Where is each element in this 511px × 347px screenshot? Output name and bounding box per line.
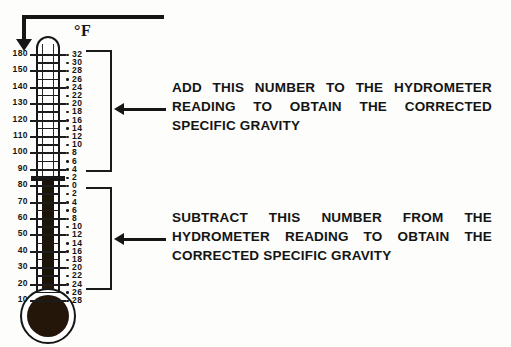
- scale-tick-dot: [66, 177, 69, 180]
- scale-tick: [36, 95, 60, 96]
- thermometer-correction-diagram: °F 1801501401301201101009080706050403020…: [0, 0, 511, 347]
- pointer-line-horizontal: [22, 15, 164, 19]
- scale-tick-dot: [66, 209, 69, 212]
- scale-tick-dot: [66, 152, 69, 155]
- scale-tick: [36, 128, 60, 129]
- scale-tick: [36, 62, 60, 63]
- temperature-value-label: 150: [13, 65, 28, 74]
- scale-tick-dot: [66, 54, 69, 57]
- scale-tick: [36, 177, 60, 178]
- scale-tick-dot: [66, 119, 69, 122]
- scale-tick-dot: [66, 86, 69, 89]
- temperature-value-label: 120: [13, 115, 28, 124]
- scale-tick-dot: [66, 103, 69, 106]
- scale-tick: [30, 87, 66, 89]
- arrow-head-add-icon: [114, 103, 124, 115]
- annotation-subtract-line-3: CORRECTED SPECIFIC GRAVITY: [172, 246, 492, 265]
- scale-tick-dot: [66, 291, 69, 294]
- scale-tick: [30, 103, 66, 105]
- scale-tick-dot: [66, 283, 69, 286]
- temperature-value-label: 100: [13, 147, 28, 156]
- temperature-value-label: 10: [18, 295, 28, 304]
- temperature-value-label: 140: [13, 82, 28, 91]
- temperature-value-label: 30: [18, 262, 28, 271]
- arrow-line-subtract: [124, 238, 166, 241]
- scale-tick: [36, 161, 60, 162]
- scale-tick: [36, 259, 60, 260]
- temperature-value-label: 110: [13, 131, 28, 140]
- scale-tick-dot: [66, 218, 69, 221]
- degree-fahrenheit-label: °F: [74, 22, 91, 40]
- scale-tick: [30, 185, 66, 187]
- scale-tick-dot: [66, 185, 69, 188]
- scale-tick-dot: [66, 201, 69, 204]
- scale-tick: [36, 275, 60, 276]
- annotation-add-line-1: ADD THIS NUMBER TO THE HYDROMETER: [172, 78, 492, 97]
- arrow-line-add: [124, 108, 166, 111]
- temperature-value-label: 60: [18, 213, 28, 222]
- scale-tick-dot: [66, 136, 69, 139]
- temperature-value-label: 50: [18, 229, 28, 238]
- scale-tick-dot: [66, 300, 69, 303]
- scale-tick: [30, 70, 66, 72]
- scale-tick: [36, 193, 60, 194]
- scale-tick-dot: [66, 111, 69, 114]
- scale-tick: [36, 79, 60, 80]
- scale-tick: [30, 152, 66, 154]
- temperature-value-label: 70: [18, 197, 28, 206]
- scale-tick: [36, 144, 60, 145]
- scale-tick-dot: [66, 275, 69, 278]
- temperature-value-label: 130: [13, 98, 28, 107]
- scale-tick-dot: [66, 160, 69, 163]
- scale-tick-dot: [66, 267, 69, 270]
- scale-tick-dot: [66, 95, 69, 98]
- temperature-value-label: 90: [18, 164, 28, 173]
- scale-tick-dot: [66, 242, 69, 245]
- annotation-subtract-line-2: HYDROMETER READING TO OBTAIN THE: [172, 227, 492, 246]
- scale-tick: [30, 136, 66, 138]
- scale-tick: [36, 226, 60, 227]
- annotation-add-text: ADD THIS NUMBER TO THE HYDROMETER READIN…: [172, 78, 492, 135]
- scale-tick: [36, 292, 60, 293]
- scale-tick-dot: [66, 78, 69, 81]
- scale-tick: [30, 218, 66, 220]
- annotation-add-line-3: SPECIFIC GRAVITY: [172, 116, 492, 135]
- scale-tick-dot: [66, 62, 69, 65]
- scale-tick-dot: [66, 250, 69, 253]
- temperature-value-label: 80: [18, 180, 28, 189]
- arrow-head-subtract-icon: [114, 233, 124, 245]
- scale-tick-dot: [66, 168, 69, 171]
- scale-tick: [30, 169, 66, 171]
- scale-tick: [30, 54, 66, 56]
- scale-tick: [30, 251, 66, 253]
- correction-value-label: 28: [72, 296, 82, 305]
- scale-tick-dot: [66, 234, 69, 237]
- scale-tick: [36, 210, 60, 211]
- scale-tick: [30, 234, 66, 236]
- scale-tick: [36, 243, 60, 244]
- temperature-value-label: 20: [18, 279, 28, 288]
- scale-tick-dot: [66, 193, 69, 196]
- scale-tick-dot: [66, 226, 69, 229]
- scale-tick: [30, 202, 66, 204]
- annotation-add-line-2: READING TO OBTAIN THE CORRECTED: [172, 97, 492, 116]
- bracket-subtract-range: [86, 187, 112, 290]
- annotation-subtract-text: SUBTRACT THIS NUMBER FROM THE HYDROMETER…: [172, 208, 492, 265]
- scale-tick-dot: [66, 127, 69, 130]
- scale-tick-dot: [66, 144, 69, 147]
- pointer-line-vertical: [22, 15, 26, 41]
- scale-tick-dot: [66, 259, 69, 262]
- scale-tick: [36, 111, 60, 112]
- scale-tick: [30, 300, 66, 302]
- scale-tick: [30, 284, 66, 286]
- temperature-value-label: 180: [13, 49, 28, 58]
- temperature-value-label: 40: [18, 246, 28, 255]
- annotation-subtract-line-1: SUBTRACT THIS NUMBER FROM THE: [172, 208, 492, 227]
- bracket-add-range: [86, 50, 112, 172]
- scale-tick: [30, 267, 66, 269]
- scale-tick-dot: [66, 70, 69, 73]
- scale-tick: [30, 120, 66, 122]
